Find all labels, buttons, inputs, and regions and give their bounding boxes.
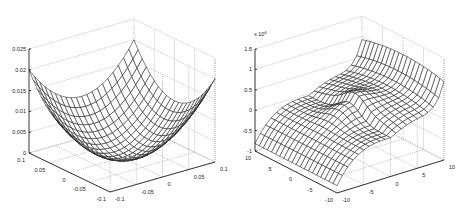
svg-text:0: 0 (168, 181, 171, 187)
svg-text:0: 0 (62, 177, 65, 183)
svg-text:1.5: 1.5 (244, 46, 252, 52)
svg-text:5: 5 (268, 166, 271, 172)
svg-text:0.005: 0.005 (12, 129, 26, 135)
svg-text:-10: -10 (342, 197, 350, 203)
z-multiplier-label: x 106 (254, 30, 267, 38)
svg-text:0.1: 0.1 (220, 166, 228, 172)
svg-text:0.015: 0.015 (12, 88, 26, 94)
svg-text:-5: -5 (308, 187, 313, 193)
svg-text:10: 10 (245, 155, 251, 161)
svg-text:-0.1: -0.1 (115, 196, 124, 202)
svg-text:10: 10 (449, 164, 455, 170)
right-surface-plot: 1.510.50-0.5-11050-5-10-10-50510 x 106 (230, 0, 461, 220)
svg-text:5: 5 (422, 172, 425, 178)
svg-text:0: 0 (289, 176, 292, 182)
svg-text:0.01: 0.01 (15, 108, 26, 114)
svg-text:0.05: 0.05 (194, 174, 205, 180)
svg-text:-0.05: -0.05 (73, 186, 86, 192)
svg-text:0.025: 0.025 (12, 46, 26, 52)
svg-text:1: 1 (249, 66, 252, 72)
svg-text:-5: -5 (369, 189, 374, 195)
right-mesh-surface (255, 40, 444, 186)
svg-text:0: 0 (249, 107, 252, 113)
left-surface-plot: 0.0250.020.0150.010.00500.10.050-0.05-0.… (0, 0, 230, 220)
left-plot-canvas: 0.0250.020.0150.010.00500.10.050-0.05-0.… (0, 0, 230, 220)
svg-text:0.1: 0.1 (17, 157, 25, 163)
svg-text:-1: -1 (247, 148, 252, 154)
svg-text:-0.5: -0.5 (243, 128, 252, 134)
svg-text:-0.05: -0.05 (141, 189, 154, 195)
svg-text:0: 0 (396, 181, 399, 187)
svg-text:-10: -10 (325, 197, 333, 203)
svg-text:0.02: 0.02 (15, 67, 26, 73)
left-mesh-surface (29, 40, 215, 161)
svg-text:0.05: 0.05 (35, 167, 46, 173)
svg-text:-0.1: -0.1 (97, 196, 106, 202)
svg-text:0.5: 0.5 (244, 87, 252, 93)
right-plot-canvas: 1.510.50-0.5-11050-5-10-10-50510 x 106 (230, 0, 461, 220)
svg-text:0: 0 (23, 150, 26, 156)
